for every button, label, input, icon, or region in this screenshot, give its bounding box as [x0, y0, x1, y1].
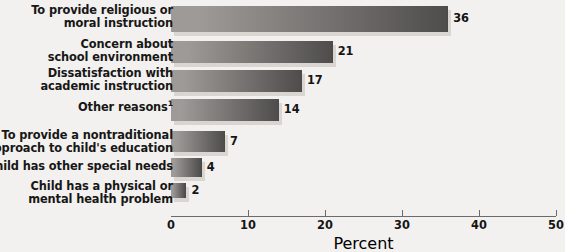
x-tick-mark [402, 210, 403, 216]
x-axis-title: Percent [333, 234, 393, 252]
category-label: To provide religious or moral instructio… [0, 4, 173, 30]
x-tick-mark [556, 210, 557, 216]
bar [171, 6, 448, 32]
x-tick-label: 30 [394, 219, 410, 232]
category-label: Other reasons1 [0, 101, 173, 114]
bar [171, 131, 225, 152]
x-tick-mark [248, 210, 249, 216]
bar-value-label: 2 [191, 184, 199, 197]
horizontal-bar-chart: 36To provide religious or moral instruct… [0, 0, 565, 252]
x-tick-label: 10 [240, 219, 256, 232]
x-tick-mark [325, 210, 326, 216]
x-tick-mark [479, 210, 480, 216]
category-label: Child has a physical or mental health pr… [0, 180, 173, 206]
category-label: Concern about school environment [0, 38, 173, 64]
bar-value-label: 36 [453, 12, 469, 25]
bar-value-label: 7 [230, 135, 238, 148]
category-label: Child has other special needs [0, 160, 173, 173]
bar-value-label: 14 [284, 103, 300, 116]
footnote-marker: 1 [168, 99, 173, 108]
bar [171, 183, 186, 198]
bar [171, 41, 333, 63]
bar-value-label: 21 [338, 45, 354, 58]
x-tick-label: 20 [317, 219, 333, 232]
x-tick-label: 40 [471, 219, 487, 232]
bar-value-label: 4 [207, 161, 215, 174]
category-label: Dissatisfaction with academic instructio… [0, 67, 173, 93]
x-axis-line [171, 216, 556, 217]
bar [171, 99, 279, 121]
x-axis-title-wrapper: Percent [171, 234, 556, 252]
x-tick-label: 0 [167, 219, 175, 232]
x-tick-label: 50 [548, 219, 564, 232]
bar [171, 158, 202, 177]
category-label: To provide a nontraditional approach to … [0, 129, 173, 155]
bar [171, 70, 302, 92]
bar-value-label: 17 [307, 74, 323, 87]
